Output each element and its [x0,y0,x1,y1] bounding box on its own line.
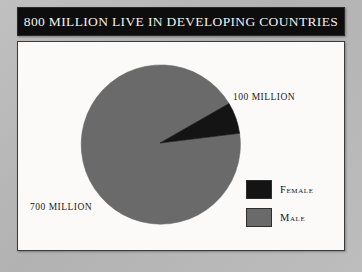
pie-label-male: 700 Million [30,202,92,212]
figure: 800 MILLION LIVE IN DEVELOPING COUNTRIES… [0,0,362,272]
pie-label-female: 100 Million [233,92,295,102]
legend-item-male[interactable]: Male [246,208,314,227]
plot-area: 100 Million 700 Million Female Male [18,42,344,250]
pie-slice-male[interactable] [81,65,240,224]
legend-swatch-male-icon [246,208,272,227]
legend-swatch-female-icon [246,180,272,199]
legend-item-female[interactable]: Female [246,180,314,199]
page-title: 800 MILLION LIVE IN DEVELOPING COUNTRIES [24,14,338,30]
legend-label-female: Female [280,184,314,195]
chart-title-banner: 800 MILLION LIVE IN DEVELOPING COUNTRIES [17,7,345,36]
chart-legend: Female Male [246,180,314,236]
legend-label-male: Male [280,212,305,223]
chart-panel: 100 Million 700 Million Female Male [17,41,345,251]
